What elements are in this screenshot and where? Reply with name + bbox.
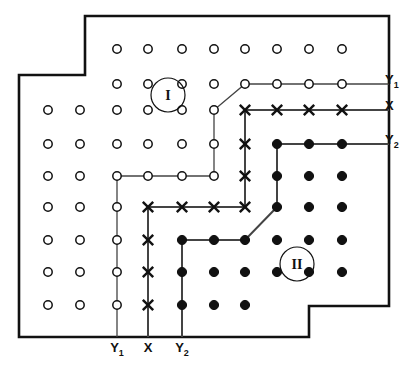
open-circle-site xyxy=(178,80,186,88)
filled-circle-site xyxy=(209,235,218,244)
boundary-paths-group xyxy=(117,84,389,337)
lattice-diagram-figure: III Y1XY2 Y1XY2 xyxy=(0,0,408,376)
open-circle-site xyxy=(273,80,281,88)
filled-circle-site xyxy=(272,202,281,211)
open-circle-site xyxy=(44,106,52,114)
filled-circle-site xyxy=(272,139,281,148)
open-circle-site xyxy=(44,268,52,276)
axis-label-y2: Y2 xyxy=(385,132,399,150)
axis-label-y1: Y1 xyxy=(385,72,399,90)
open-circle-site xyxy=(178,140,186,148)
open-circle-site xyxy=(241,80,249,88)
axis-label-subscript: 2 xyxy=(394,140,399,150)
axis-label-x: X xyxy=(385,98,394,113)
open-circle-site xyxy=(241,45,249,53)
axis-label-subscript: 1 xyxy=(119,348,124,358)
filled-circle-site xyxy=(240,235,249,244)
filled-circle-site xyxy=(337,202,346,211)
filled-circle-site xyxy=(240,267,249,276)
open-circle-site xyxy=(144,45,152,53)
filled-circle-site xyxy=(209,267,218,276)
open-circle-site xyxy=(76,172,84,180)
axis-label-base: X xyxy=(385,98,394,113)
filled-circle-site xyxy=(209,300,218,309)
axis-label-base: Y xyxy=(385,72,394,87)
open-circle-site xyxy=(305,45,313,53)
axis-label-base: Y xyxy=(385,132,394,147)
open-circle-site xyxy=(113,106,121,114)
open-circle-site xyxy=(113,140,121,148)
open-circle-site xyxy=(210,80,218,88)
open-circle-site xyxy=(338,45,346,53)
open-circle-site xyxy=(113,236,121,244)
axis-label-subscript: 1 xyxy=(394,80,399,90)
open-circle-site xyxy=(113,80,121,88)
diagram-canvas: III Y1XY2 Y1XY2 xyxy=(0,0,408,376)
open-circle-site xyxy=(144,80,152,88)
open-circle-site xyxy=(76,106,84,114)
open-circle-site xyxy=(113,203,121,211)
filled-circle-site xyxy=(337,267,346,276)
open-circle-site xyxy=(273,45,281,53)
open-circle-site xyxy=(210,172,218,180)
open-circle-site xyxy=(144,172,152,180)
filled-circle-site xyxy=(304,235,313,244)
open-circle-site xyxy=(210,106,218,114)
filled-circle-site xyxy=(304,139,313,148)
open-circle-site xyxy=(76,236,84,244)
open-circle-site xyxy=(113,268,121,276)
filled-circle-site xyxy=(240,300,249,309)
filled-circle-site xyxy=(272,171,281,180)
region-label-ii: II xyxy=(292,257,303,272)
bottom-axis-labels-group: Y1XY2 xyxy=(110,340,189,358)
open-circle-site xyxy=(113,172,121,180)
axis-label-base: Y xyxy=(110,340,119,355)
open-circle-site xyxy=(210,45,218,53)
filled-circle-site xyxy=(337,139,346,148)
axis-label-base: X xyxy=(144,340,153,355)
open-circle-site xyxy=(76,140,84,148)
y1-boundary xyxy=(117,84,389,337)
open-circle-site xyxy=(144,140,152,148)
open-circle-site xyxy=(338,80,346,88)
filled-circle-site xyxy=(304,202,313,211)
open-circle-site xyxy=(178,45,186,53)
open-circle-site xyxy=(44,172,52,180)
open-circle-site xyxy=(44,236,52,244)
axis-label-y2: Y2 xyxy=(175,340,189,358)
filled-circle-site xyxy=(272,235,281,244)
filled-circle-site xyxy=(337,235,346,244)
filled-circle-site xyxy=(177,300,186,309)
open-circle-site xyxy=(44,203,52,211)
open-circle-site xyxy=(178,172,186,180)
open-circle-site xyxy=(305,80,313,88)
region-labels-group: III xyxy=(151,78,314,281)
open-circle-site xyxy=(44,301,52,309)
open-circle-site xyxy=(76,268,84,276)
axis-label-y1: Y1 xyxy=(110,340,124,358)
open-circle-site xyxy=(76,301,84,309)
open-circle-site xyxy=(178,106,186,114)
open-circle-site xyxy=(76,203,84,211)
axis-label-x: X xyxy=(144,340,153,355)
right-axis-labels-group: Y1XY2 xyxy=(385,72,399,150)
open-circle-site xyxy=(44,140,52,148)
open-circle-site xyxy=(113,45,121,53)
open-circle-site xyxy=(144,106,152,114)
axis-label-base: Y xyxy=(175,340,184,355)
axis-label-subscript: 2 xyxy=(184,348,189,358)
region-label-i: I xyxy=(165,88,170,103)
open-circle-site xyxy=(113,301,121,309)
filled-circle-site xyxy=(304,171,313,180)
filled-circle-site xyxy=(177,267,186,276)
open-circle-site xyxy=(210,140,218,148)
filled-circle-site xyxy=(177,235,186,244)
filled-circle-site xyxy=(337,171,346,180)
